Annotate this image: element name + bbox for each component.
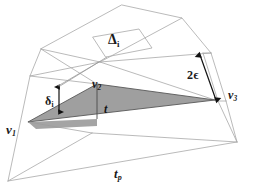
label-v3: v3 [228,89,237,101]
label-big-delta-i: Δi [108,33,119,47]
base-mid-to-right [92,133,237,142]
label-triangle-t: t [104,103,107,115]
slab-crease-b [41,49,97,84]
label-v2: v2 [92,78,101,90]
slab-upper-left-face [30,49,100,76]
triangle-t-fill [28,84,215,122]
inner-parallelogram [93,29,152,57]
diagram-svg [0,0,253,193]
label-v1: v1 [6,123,16,136]
slab-right-front-edge [203,53,218,101]
slab-top-right-edge [100,53,211,62]
figure-canvas: v1 v2 v3 t tp δi Δi 2ϵ [0,0,253,193]
label-two-epsilon: 2ϵ [187,69,199,81]
slab-top-right-ridge [182,18,211,53]
label-delta-i: δi [45,95,53,107]
label-base-triangle-tp: tp [114,167,122,180]
